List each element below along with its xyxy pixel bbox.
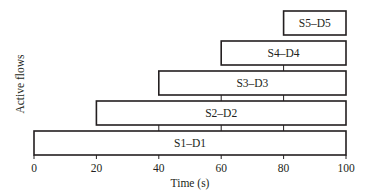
flow-gantt-chart: S1–D1S2–D2S3–D3S4–D4S5–D5 020406080100 T… — [0, 0, 370, 196]
x-tick-label: 80 — [278, 162, 290, 174]
flow-bar-label: S1–D1 — [174, 137, 206, 149]
flow-bar-label: S2–D2 — [205, 107, 237, 119]
x-axis: 020406080100 — [31, 155, 355, 174]
y-axis-label: Active flows — [14, 54, 26, 114]
flow-bar-label: S4–D4 — [268, 47, 300, 59]
x-tick-label: 40 — [153, 162, 165, 174]
x-tick-label: 100 — [337, 162, 355, 174]
x-tick-label: 60 — [215, 162, 227, 174]
bars: S1–D1S2–D2S3–D3S4–D4S5–D5 — [34, 11, 346, 155]
x-tick-label: 20 — [91, 162, 103, 174]
x-axis-label: Time (s) — [171, 177, 210, 190]
flow-bar-label: S3–D3 — [236, 77, 268, 89]
flow-bar-label: S5–D5 — [299, 17, 331, 29]
x-tick-label: 0 — [31, 162, 37, 174]
